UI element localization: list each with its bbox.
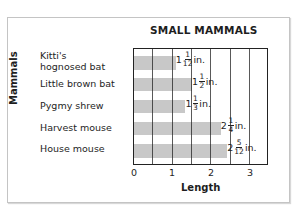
value-whole: 1 <box>192 76 198 87</box>
category-label-house-mouse: House mouse <box>40 144 105 155</box>
x-tick-3: 3 <box>247 167 253 178</box>
value-label: 112in. <box>192 73 218 90</box>
category-label-line: hognosed bat <box>40 62 105 73</box>
y-axis-label: Mammals <box>8 51 19 105</box>
chart-title: SMALL MAMMALS <box>150 24 258 36</box>
grid-line <box>172 49 173 164</box>
x-tick-1: 1 <box>169 167 175 178</box>
grid-line <box>152 49 153 164</box>
value-whole: 1 <box>185 98 191 109</box>
value-fraction: 14 <box>228 117 234 134</box>
bar <box>134 100 185 113</box>
category-label-kittis-hognosed-bat: Kitti's hognosed bat <box>40 51 105 72</box>
category-label-harvest-mouse: Harvest mouse <box>40 123 112 134</box>
x-tick-0: 0 <box>131 167 137 178</box>
value-fraction: 512 <box>234 139 244 156</box>
value-unit: in. <box>199 98 211 109</box>
category-label-line: Kitti's <box>40 51 105 62</box>
bar <box>134 56 176 70</box>
value-whole: 2 <box>227 142 233 153</box>
bar <box>134 78 192 91</box>
value-unit: in. <box>245 142 257 153</box>
value-whole: 1 <box>176 54 182 65</box>
value-label: 2512in. <box>227 139 256 156</box>
value-unit: in. <box>206 76 218 87</box>
category-label-little-brown-bat: Little brown bat <box>40 79 115 90</box>
x-axis-label: Length <box>181 182 220 193</box>
value-label: 214in. <box>221 117 247 134</box>
x-tick-2: 2 <box>208 167 214 178</box>
value-unit: in. <box>193 54 205 65</box>
value-label: 113in. <box>185 95 211 112</box>
bar <box>134 144 227 158</box>
category-label-pygmy-shrew: Pygmy shrew <box>40 101 104 112</box>
value-whole: 2 <box>221 120 227 131</box>
value-fraction: 13 <box>193 95 199 112</box>
value-fraction: 12 <box>199 73 205 90</box>
value-label: 1112in. <box>176 51 205 68</box>
bar <box>134 122 221 135</box>
value-fraction: 112 <box>183 51 193 68</box>
value-unit: in. <box>235 120 247 131</box>
